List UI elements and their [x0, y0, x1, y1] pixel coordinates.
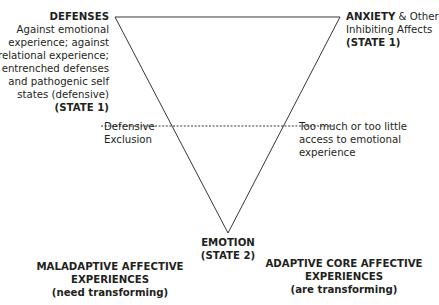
adaptive-line: EXPERIENCES — [260, 270, 428, 283]
anxiety-line2: Inhibiting Affects — [346, 23, 439, 36]
adaptive-label: ADAPTIVE CORE AFFECTIVE EXPERIENCES (are… — [260, 257, 428, 296]
defensive-exclusion-line: Defensive — [104, 120, 155, 133]
anxiety-label: ANXIETY & Other Inhibiting Affects (STAT… — [346, 10, 439, 49]
defenses-desc-line: states (defensive) — [0, 88, 109, 101]
defenses-desc-line: relational experience; — [0, 49, 109, 62]
anxiety-state: (STATE 1) — [346, 36, 439, 49]
emotion-title: EMOTION — [178, 236, 278, 249]
defenses-title: DEFENSES — [0, 10, 109, 23]
access-line: experience — [299, 146, 407, 159]
defenses-desc-line: entrenched defenses — [0, 62, 109, 75]
adaptive-note: (are transforming) — [260, 283, 428, 296]
defenses-desc-line: Against emotional — [0, 23, 109, 36]
defensive-exclusion-line: Exclusion — [104, 133, 155, 146]
maladaptive-label: MALADAPTIVE AFFECTIVE EXPERIENCES (need … — [30, 260, 190, 299]
maladaptive-line: EXPERIENCES — [30, 273, 190, 286]
defenses-label: DEFENSES Against emotional experience; a… — [0, 10, 109, 114]
adaptive-line: ADAPTIVE CORE AFFECTIVE — [260, 257, 428, 270]
defenses-state: (STATE 1) — [0, 101, 109, 114]
access-label: Too much or too little access to emotion… — [299, 120, 407, 159]
anxiety-title-suffix: & Other — [395, 11, 438, 22]
anxiety-title: ANXIETY — [346, 11, 395, 22]
maladaptive-line: MALADAPTIVE AFFECTIVE — [30, 260, 190, 273]
defensive-exclusion-label: Defensive Exclusion — [104, 120, 155, 146]
defenses-desc-line: and pathogenic self — [0, 75, 109, 88]
maladaptive-note: (need transforming) — [30, 286, 190, 299]
defenses-desc-line: experience; against — [0, 36, 109, 49]
access-line: Too much or too little — [299, 120, 407, 133]
access-line: access to emotional — [299, 133, 407, 146]
